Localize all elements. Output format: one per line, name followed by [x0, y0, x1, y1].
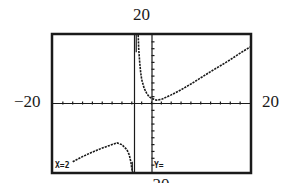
left-branch-curve — [73, 143, 133, 172]
right-branch-curve — [138, 35, 250, 100]
trace-y-readout: Y= — [154, 161, 164, 170]
calculator-graph-screen: X=2 Y= — [0, 0, 286, 183]
trace-x-readout: X=2 — [55, 161, 70, 170]
